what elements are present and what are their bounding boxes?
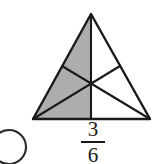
answer-choice-bubble[interactable] [0, 130, 26, 164]
fraction-question-figure: 3 6 [0, 0, 162, 164]
fraction-label: 3 6 [74, 119, 112, 164]
fraction-denominator: 6 [74, 145, 112, 164]
fraction-numerator: 3 [74, 119, 112, 140]
